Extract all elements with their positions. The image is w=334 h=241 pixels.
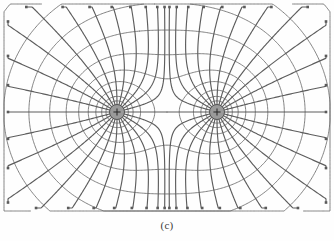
- field-line-arrow-marker: [7, 20, 10, 23]
- field-line: [176, 116, 211, 208]
- field-line-arrow-marker: [201, 207, 204, 210]
- field-line: [8, 21, 112, 106]
- field-line-arrow-marker: [270, 6, 273, 9]
- field-line-arrow-marker: [175, 207, 178, 210]
- field-line: [221, 7, 308, 106]
- field-line-arrow-marker: [239, 207, 242, 210]
- field-line-arrow-marker: [92, 207, 95, 210]
- field-line: [26, 7, 113, 106]
- field-line-arrow-marker: [144, 6, 147, 9]
- field-line: [8, 117, 112, 202]
- field-line-arrow-marker: [7, 111, 10, 114]
- field-line: [210, 119, 220, 208]
- field-line-arrow-marker: [325, 111, 328, 114]
- field-line-arrow-marker: [175, 6, 178, 9]
- point-charge-positive: [210, 105, 225, 120]
- field-line-arrow-marker: [264, 207, 267, 210]
- field-line-arrow-marker: [129, 6, 132, 9]
- field-line-arrow-marker: [325, 201, 328, 204]
- field-line: [222, 21, 326, 106]
- field-line: [8, 116, 111, 168]
- field-line-arrow-marker: [88, 6, 91, 9]
- field-line-arrow-marker: [25, 6, 28, 9]
- field-line-arrow-marker: [187, 6, 190, 9]
- field-line-arrow-marker: [325, 84, 328, 87]
- field-line-arrow-marker: [7, 55, 10, 58]
- field-line: [122, 117, 148, 208]
- equipotential-lines-group: [4, 4, 330, 211]
- field-line-arrow-marker: [168, 6, 171, 9]
- field-line: [8, 114, 110, 139]
- field-diagram-svg: [0, 0, 334, 241]
- field-line-arrow-marker: [131, 207, 134, 210]
- field-line-arrow-marker: [110, 6, 113, 9]
- field-line-arrow-marker: [325, 55, 328, 58]
- field-line: [224, 56, 327, 108]
- field-line: [8, 85, 110, 110]
- field-line-arrow-marker: [202, 6, 205, 9]
- field-line: [224, 114, 326, 139]
- field-line-arrow-marker: [186, 207, 189, 210]
- field-line-arrow-marker: [325, 138, 328, 141]
- field-line-arrow-marker: [7, 167, 10, 170]
- field-line: [124, 116, 159, 208]
- equipotential-line: [4, 4, 330, 211]
- field-line-arrow-marker: [163, 6, 166, 9]
- field-line: [219, 119, 266, 208]
- field-line-arrow-marker: [67, 207, 70, 210]
- field-line-arrow-marker: [61, 6, 64, 9]
- figure-electric-field-two-positive-charges: (c): [0, 0, 334, 241]
- field-line: [114, 119, 124, 208]
- field-line: [121, 119, 136, 209]
- equipotential-line: [29, 4, 305, 211]
- field-line: [68, 119, 115, 208]
- field-line-arrow-marker: [113, 207, 116, 210]
- field-line-arrow-marker: [168, 207, 171, 210]
- field-line: [198, 119, 213, 209]
- field-line-arrow-marker: [7, 201, 10, 204]
- field-line-arrow-marker: [156, 6, 159, 9]
- field-line-arrow-marker: [156, 207, 159, 210]
- figure-caption: (c): [0, 219, 334, 231]
- field-line-arrow-marker: [325, 20, 328, 23]
- field-line: [224, 85, 326, 110]
- field-line: [224, 116, 327, 168]
- field-line-arrow-marker: [221, 6, 224, 9]
- field-line-arrow-marker: [163, 207, 166, 210]
- field-line-arrow-marker: [145, 207, 148, 210]
- field-line-arrow-marker: [243, 6, 246, 9]
- field-line-arrow-marker: [297, 207, 300, 210]
- field-line: [8, 56, 111, 108]
- field-line: [222, 117, 326, 202]
- field-line: [186, 117, 212, 208]
- field-line-arrow-marker: [35, 207, 38, 210]
- field-line-arrow-marker: [7, 84, 10, 87]
- point-charge-positive: [110, 105, 125, 120]
- field-line-arrow-marker: [325, 167, 328, 170]
- field-line-arrow-marker: [306, 6, 309, 9]
- field-line-arrow-marker: [7, 138, 10, 141]
- field-lines-group: [8, 7, 326, 208]
- field-line-arrow-marker: [219, 207, 222, 210]
